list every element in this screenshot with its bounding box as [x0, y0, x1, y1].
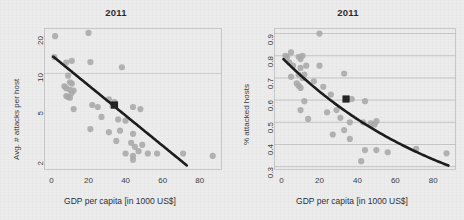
panel-title-left: 2011 [0, 7, 232, 18]
plot-area-left [44, 28, 222, 170]
y-tick-label: 0.9 [266, 34, 275, 45]
scatter-svg-right [274, 28, 456, 170]
y-tick-label: 0.5 [266, 122, 275, 133]
y-tick-label: 0.6 [266, 100, 275, 111]
chart-panel-left: 2011 Avg. # attacks per host 251020 0204… [0, 0, 232, 220]
x-tick-label: 0 [268, 176, 296, 185]
y-tick-label: 10 [36, 73, 45, 82]
chart-panel-right: 2011 % attacked hosts 0.30.40.50.60.70.8… [232, 0, 464, 220]
y-tick-label: 0.8 [266, 56, 275, 67]
y-tick-label: 0.4 [266, 144, 275, 155]
plot-area-right [274, 28, 456, 170]
x-tick-label: 40 [343, 176, 371, 185]
x-tick-label: 80 [186, 176, 214, 185]
x-axis-label-left: GDP per capita [in 1000 US$] [20, 196, 220, 206]
y-axis-label-right: % attacked hosts [242, 84, 251, 145]
x-tick-label: 0 [37, 176, 65, 185]
scatter-svg-left [44, 28, 222, 170]
panel-title-right: 2011 [232, 7, 464, 18]
x-tick-label: 60 [381, 176, 409, 185]
x-axis-label-right: GDP per capita [in 1000 US$] [252, 196, 452, 206]
x-tick-label: 20 [306, 176, 334, 185]
x-tick-label: 40 [112, 176, 140, 185]
x-tick-label: 20 [75, 176, 103, 185]
y-tick-label: 20 [36, 36, 45, 45]
y-tick-label: 5 [36, 111, 45, 115]
y-axis-label-left: Avg. # attacks per host [12, 79, 21, 160]
x-tick-label: 60 [149, 176, 177, 185]
x-tick-label: 80 [419, 176, 447, 185]
y-tick-label: 0.7 [266, 78, 275, 89]
figure-container: 2011 Avg. # attacks per host 251020 0204… [0, 0, 464, 220]
y-tick-label: 2 [36, 161, 45, 165]
